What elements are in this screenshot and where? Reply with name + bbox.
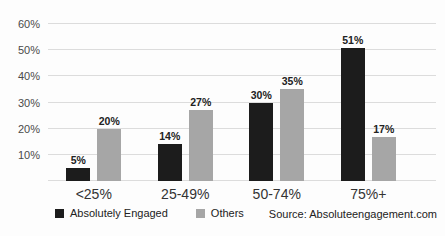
bar-group: 30%35%50-74%	[231, 24, 323, 181]
bar-value-label: 5%	[71, 154, 86, 166]
source-text: Source: Absoluteengagement.com	[269, 208, 437, 220]
legend: Absolutely Engaged Others	[55, 207, 244, 219]
bar-fill	[249, 103, 273, 182]
bar-others: 35%	[280, 89, 304, 181]
bar-others: 17%	[372, 137, 396, 181]
y-axis-tick-label: 50%	[0, 43, 40, 57]
y-axis-tick-label: 40%	[0, 69, 40, 83]
bar-group: 14%27%25-49%	[140, 24, 232, 181]
y-axis-tick-label: 10%	[0, 148, 40, 162]
y-axis-tick-label: 20%	[0, 122, 40, 136]
plot-area: 5%20%<25%14%27%25-49%30%35%50-74%51%17%7…	[48, 24, 436, 181]
bar-fill	[341, 48, 365, 181]
y-axis-tick-label: 60%	[0, 17, 40, 31]
bar-value-label: 27%	[190, 96, 211, 108]
bar-chart: 10%20%30%40%50%60% 5%20%<25%14%27%25-49%…	[0, 0, 445, 236]
y-axis-tick-label: 30%	[0, 96, 40, 110]
bar-fill	[66, 168, 90, 181]
bar-value-label: 17%	[373, 123, 394, 135]
bar-value-label: 14%	[159, 130, 180, 142]
legend-item-absolutely-engaged: Absolutely Engaged	[55, 207, 168, 219]
bar-fill	[189, 110, 213, 181]
bar-absolutely-engaged: 14%	[158, 144, 182, 181]
bar-fill	[158, 144, 182, 181]
category-label: 75%+	[350, 186, 386, 202]
legend-swatch-others	[196, 209, 205, 218]
bar-fill	[372, 137, 396, 181]
bar-absolutely-engaged: 30%	[249, 103, 273, 182]
bar-value-label: 51%	[342, 34, 363, 46]
legend-label-others: Others	[211, 207, 244, 219]
legend-item-others: Others	[196, 207, 244, 219]
bar-value-label: 30%	[251, 89, 272, 101]
bar-fill	[97, 129, 121, 181]
legend-label-absolutely-engaged: Absolutely Engaged	[70, 207, 168, 219]
bar-absolutely-engaged: 51%	[341, 48, 365, 181]
bar-group: 51%17%75%+	[323, 24, 415, 181]
bar-others: 20%	[97, 129, 121, 181]
category-label: <25%	[76, 186, 112, 202]
category-label: 50-74%	[253, 186, 301, 202]
bar-value-label: 35%	[282, 75, 303, 87]
category-label: 25-49%	[161, 186, 209, 202]
bar-absolutely-engaged: 5%	[66, 168, 90, 181]
bar-fill	[280, 89, 304, 181]
bar-value-label: 20%	[99, 115, 120, 127]
legend-swatch-absolutely-engaged	[55, 209, 64, 218]
bar-others: 27%	[189, 110, 213, 181]
bar-group: 5%20%<25%	[48, 24, 140, 181]
